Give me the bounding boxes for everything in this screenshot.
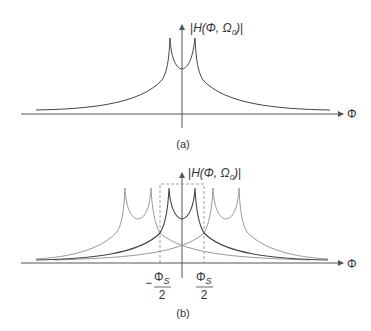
caption-a: (a): [176, 138, 189, 150]
svg-text:−: −: [145, 276, 152, 290]
response-curve-a: [36, 38, 330, 110]
figure-b: |H(Φ, Ω0)| Φ − ΦS 2 ΦS 2 (b): [21, 166, 357, 319]
figure-a: |H(Φ, Ω0)| Φ (a): [21, 21, 357, 150]
replica-curve-right: [54, 188, 328, 260]
y-axis-label-a: |H(Φ, Ω0)|: [190, 21, 243, 37]
svg-text:ΦS: ΦS: [196, 270, 212, 286]
diagram-canvas: |H(Φ, Ω0)| Φ (a) |H(Φ, Ω0)| Φ − ΦS 2: [0, 0, 371, 331]
caption-b: (b): [176, 307, 189, 319]
x-axis-label-a: Φ: [347, 107, 357, 121]
tick-label-neg-half-sampling: − ΦS 2: [145, 270, 171, 302]
svg-text:2: 2: [159, 288, 166, 302]
tick-label-pos-half-sampling: ΦS 2: [196, 270, 213, 302]
replica-curve-left: [36, 188, 310, 260]
x-axis-label-b: Φ: [347, 257, 357, 271]
svg-text:ΦS: ΦS: [154, 270, 170, 286]
y-axis-label-b: |H(Φ, Ω0)|: [188, 166, 241, 182]
svg-text:2: 2: [201, 288, 208, 302]
